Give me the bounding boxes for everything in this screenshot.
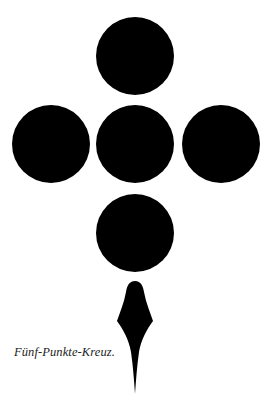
dot-center <box>96 105 174 183</box>
five-point-cross-figure: Fünf-Punkte-Kreuz. <box>0 0 272 416</box>
dot-bottom <box>96 194 174 272</box>
figure-caption: Fünf-Punkte-Kreuz. <box>14 345 115 360</box>
dot-top <box>96 17 174 95</box>
dot-left <box>12 105 90 183</box>
dots-group <box>12 17 260 272</box>
spike-shape <box>117 281 153 394</box>
dot-right <box>182 105 260 183</box>
